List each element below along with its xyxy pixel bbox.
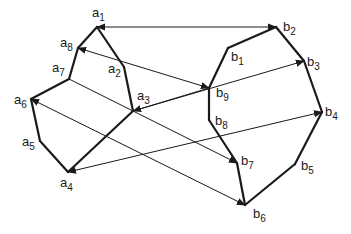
matching-diagram: [0, 0, 351, 234]
vertex-label-b5: b5: [301, 159, 314, 176]
polygon-b-edge-b9-b1: [209, 48, 228, 88]
vertex-label-b9: b9: [216, 86, 229, 103]
polygon-a-edge-a3-a4: [68, 111, 133, 172]
vertex-label-b3: b3: [307, 55, 320, 72]
vertex-label-a4: a4: [60, 176, 73, 193]
arrow-a7-b7: [69, 79, 237, 163]
vertex-label-a1: a1: [92, 6, 105, 23]
vertex-label-b7: b7: [241, 154, 254, 171]
vertex-label-a8: a8: [60, 36, 73, 53]
polygon-a-edge-a6-a7: [31, 79, 69, 99]
vertex-label-a7: a7: [52, 61, 65, 78]
arrow-b9-a8: [78, 48, 209, 88]
vertex-label-a2: a2: [108, 62, 121, 79]
vertex-label-a3: a3: [137, 89, 150, 106]
vertex-label-b2: b2: [283, 20, 296, 37]
polygon-a-edge-a2-a3: [124, 67, 133, 111]
polygon-b-edge-b1-b2: [228, 27, 276, 48]
vertex-label-b8: b8: [215, 114, 228, 131]
polygon-b-edge-b4-b5: [295, 112, 322, 164]
vertex-label-b4: b4: [325, 105, 338, 122]
vertex-label-a5: a5: [22, 135, 35, 152]
polygon-a-edge-a4-a5: [40, 141, 68, 172]
polygon-a-edge-a8-a1: [78, 27, 97, 48]
arrow-b4-a4: [68, 112, 322, 172]
vertex-label-b6: b6: [253, 207, 266, 224]
vertex-label-a6: a6: [14, 93, 27, 110]
vertex-label-b1: b1: [231, 50, 244, 67]
